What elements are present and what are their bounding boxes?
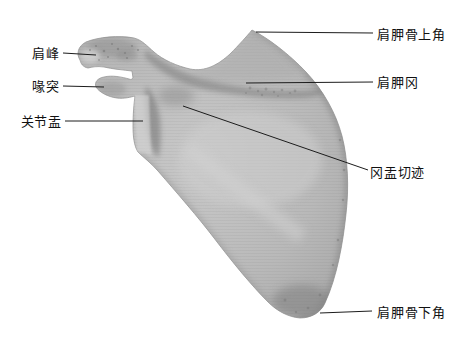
scapula-bone (60, 20, 380, 330)
anatomy-figure: 肩峰喙突关节盂肩胛骨上角肩胛冈冈盂切迹肩胛骨下角 (0, 0, 461, 343)
scapula-illustration (0, 0, 461, 343)
leader-line-superior-angle (256, 32, 373, 33)
leader-line-inferior-angle (320, 311, 372, 313)
